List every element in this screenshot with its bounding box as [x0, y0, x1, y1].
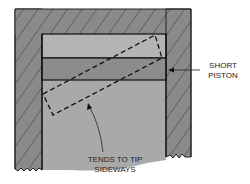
short-piston-label-line1: SHORT	[201, 61, 245, 71]
tends-to-tip-label-line1: TENDS TO TIP	[70, 155, 160, 165]
piston-ring-band	[42, 58, 166, 80]
cylinder-wall-right	[166, 9, 191, 158]
tends-to-tip-label: TENDS TO TIP SIDEWAYS	[70, 155, 160, 175]
short-piston-label-line2: PISTON	[201, 71, 245, 81]
tends-to-tip-label-line2: SIDEWAYS	[70, 165, 160, 175]
piston-top	[42, 34, 166, 58]
short-piston-label: SHORT PISTON	[201, 61, 245, 81]
cylinder-wall-top	[15, 9, 191, 34]
